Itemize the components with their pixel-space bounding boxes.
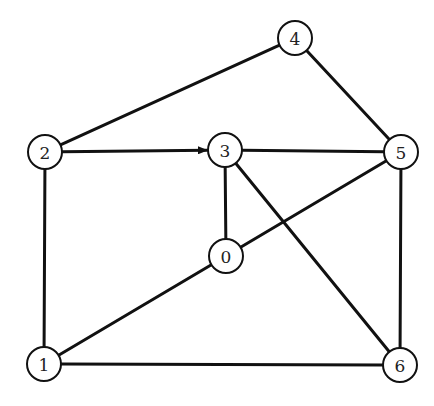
node-3: 3 <box>208 133 242 167</box>
node-2: 2 <box>28 135 62 169</box>
node-5: 5 <box>384 135 418 169</box>
edge-2-1 <box>44 169 45 347</box>
edge-1-6 <box>61 364 383 365</box>
edges-group <box>44 45 401 365</box>
edge-3-5 <box>242 150 384 152</box>
edge-4-5 <box>307 50 390 139</box>
node-label: 6 <box>395 356 406 376</box>
node-label: 3 <box>220 141 231 161</box>
edge-3-6 <box>236 163 390 352</box>
nodes-group: 0123456 <box>27 21 418 382</box>
edge-0-1 <box>59 265 212 356</box>
edge-5-6 <box>400 169 401 348</box>
node-label: 1 <box>39 355 50 375</box>
node-label: 4 <box>290 29 301 49</box>
edge-2-4 <box>60 45 279 145</box>
graph-diagram: 0123456 <box>0 0 434 406</box>
node-1: 1 <box>27 347 61 381</box>
node-label: 0 <box>221 247 232 267</box>
node-label: 5 <box>396 143 407 163</box>
edge-2-3-arrow <box>62 150 207 152</box>
node-0: 0 <box>209 239 243 273</box>
node-label: 2 <box>40 143 51 163</box>
edge-3-0 <box>225 167 226 239</box>
node-6: 6 <box>383 348 417 382</box>
edge-0-5 <box>241 161 387 248</box>
node-4: 4 <box>278 21 312 55</box>
